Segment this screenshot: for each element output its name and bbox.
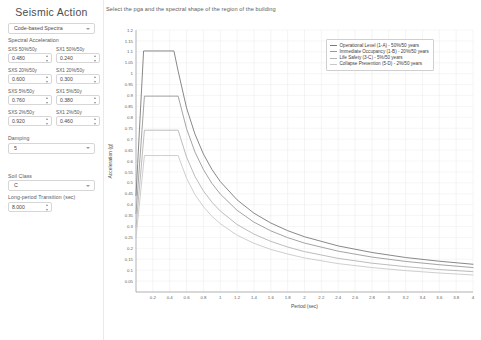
legend-item[interactable]: Collapse Prevention (5-D) - 2%/50 years: [330, 61, 429, 67]
param-input-sxs-2[interactable]: 0.920: [8, 116, 52, 126]
x-tick-label: 0.4: [167, 295, 174, 300]
param-label-3: SX1 20%/50y: [56, 68, 100, 73]
x-tick-label: 2.4: [335, 295, 342, 300]
main-content: Select the pga and the spectral shape of…: [104, 0, 481, 340]
y-tick-label: 0.65: [125, 148, 134, 153]
param-label-5: SX1 5%/50y: [56, 89, 100, 94]
spectral-parameters-grid: SXS 50%/50y 0.480 SX1 50%/50y 0.240 SXS …: [8, 47, 103, 130]
x-tick-label: 1.4: [251, 295, 258, 300]
y-tick-label: 1.15: [125, 39, 134, 44]
x-tick-label: 1.8: [285, 295, 292, 300]
spinner-icon[interactable]: [93, 118, 97, 125]
legend-line-icon: [330, 58, 337, 59]
damping-value: 5: [14, 145, 17, 151]
y-tick-label: 0.55: [125, 170, 134, 175]
param-value-0: 0.480: [12, 55, 25, 61]
param-value-3: 0.300: [60, 76, 73, 82]
soil-class-select[interactable]: C: [8, 180, 95, 191]
spinner-icon[interactable]: [45, 97, 49, 104]
spinner-icon[interactable]: [93, 97, 97, 104]
param-input-sxs-50[interactable]: 0.480: [8, 53, 52, 63]
x-axis-title: Period (sec): [291, 303, 318, 309]
param-value-2: 0.600: [12, 76, 25, 82]
param-label-2: SXS 20%/50y: [8, 68, 52, 73]
y-tick-label: 0.8: [127, 115, 134, 120]
chevron-down-icon: [86, 147, 90, 149]
seismic-action-sidebar: Seismic Action Code-based Spectra Spectr…: [0, 0, 104, 340]
y-tick-label: 1: [131, 71, 134, 76]
legend-label: Collapse Prevention (5-D) - 2%/50 years: [340, 61, 422, 67]
param-cell-5: SX1 5%/50y 0.380: [56, 89, 100, 109]
param-input-sxs-20[interactable]: 0.600: [8, 74, 52, 84]
chart-legend: Operational Level (1-A) - 50%/50 yearsIm…: [326, 39, 434, 71]
param-value-1: 0.240: [60, 55, 73, 61]
y-tick-label: 1.2: [127, 28, 134, 33]
spectra-type-select[interactable]: Code-based Spectra: [8, 23, 95, 34]
x-tick-label: 2.8: [369, 295, 376, 300]
instruction-text: Select the pga and the spectral shape of…: [104, 0, 481, 12]
x-tick-label: 3.8: [453, 295, 460, 300]
legend-line-icon: [330, 45, 337, 46]
spinner-icon[interactable]: [45, 204, 49, 211]
x-tick-label: 1.6: [268, 295, 275, 300]
param-input-sx1-5[interactable]: 0.380: [56, 95, 100, 105]
spectra-type-value: Code-based Spectra: [14, 25, 63, 31]
x-tick-label: 3.4: [419, 295, 426, 300]
spinner-icon[interactable]: [45, 118, 49, 125]
param-value-6: 0.920: [12, 118, 25, 124]
param-value-4: 0.760: [12, 97, 25, 103]
soil-class-label: Soil Class: [8, 173, 103, 179]
y-tick-label: 0.2: [127, 246, 134, 251]
legend-line-icon: [330, 51, 337, 52]
param-label-4: SXS 5%/50y: [8, 89, 52, 94]
y-tick-label: 1.1: [127, 49, 134, 54]
param-input-sx1-2[interactable]: 0.460: [56, 116, 100, 126]
spectral-acceleration-label: Spectral Acceleration: [8, 37, 103, 43]
long-period-value: 8.000: [12, 204, 25, 210]
damping-select[interactable]: 5: [8, 143, 95, 154]
x-tick-label: 0.2: [150, 295, 157, 300]
y-axis-title: Acceleration (g): [107, 143, 113, 178]
seismic-action-screen: Seismic Action Code-based Spectra Spectr…: [0, 0, 481, 340]
chevron-down-icon: [86, 185, 90, 187]
damping-label: Damping: [8, 135, 103, 141]
y-tick-label: 0.1: [127, 268, 134, 273]
spinner-icon[interactable]: [93, 76, 97, 83]
param-cell-1: SX1 50%/50y 0.240: [56, 47, 100, 67]
y-tick-label: 0.4: [127, 202, 134, 207]
y-tick-label: 0.45: [125, 191, 134, 196]
x-tick-label: 3: [388, 295, 391, 300]
x-tick-label: 1: [219, 295, 222, 300]
y-tick-label: 0.35: [125, 213, 134, 218]
y-tick-label: 0.3: [127, 224, 134, 229]
y-tick-label: 0.05: [125, 279, 134, 284]
spinner-icon[interactable]: [93, 55, 97, 62]
y-tick-label: 0.95: [125, 82, 134, 87]
spinner-icon[interactable]: [45, 55, 49, 62]
param-label-7: SX1 2%/50y: [56, 110, 100, 115]
param-cell-3: SX1 20%/50y 0.300: [56, 68, 100, 88]
legend-line-icon: [330, 64, 337, 65]
x-tick-label: 0.8: [200, 295, 207, 300]
param-label-0: SXS 50%/50y: [8, 47, 52, 52]
y-tick-label: 0.15: [125, 257, 134, 262]
x-tick-label: 0.6: [184, 295, 191, 300]
param-input-sx1-50[interactable]: 0.240: [56, 53, 100, 63]
param-label-6: SXS 2%/50y: [8, 110, 52, 115]
param-cell-7: SX1 2%/50y 0.460: [56, 110, 100, 130]
param-cell-0: SXS 50%/50y 0.480: [8, 47, 52, 67]
x-tick-label: 3.6: [436, 295, 443, 300]
long-period-label: Long-period Transition (sec): [8, 194, 103, 200]
x-tick-label: 2: [303, 295, 306, 300]
y-tick-label: 0.25: [125, 235, 134, 240]
param-input-sx1-20[interactable]: 0.300: [56, 74, 100, 84]
y-tick-label: 0.85: [125, 104, 134, 109]
long-period-input[interactable]: 8.000: [8, 202, 52, 212]
spinner-icon[interactable]: [45, 76, 49, 83]
y-tick-label: 0.7: [127, 137, 134, 142]
page-title: Seismic Action: [0, 0, 103, 23]
param-input-sxs-5[interactable]: 0.760: [8, 95, 52, 105]
param-cell-2: SXS 20%/50y 0.600: [8, 68, 52, 88]
x-tick-label: 1.2: [234, 295, 241, 300]
param-cell-4: SXS 5%/50y 0.760: [8, 89, 52, 109]
